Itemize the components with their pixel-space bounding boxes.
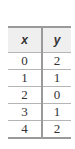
cell-y: 2: [42, 121, 71, 139]
cell-y: 1: [42, 104, 71, 121]
header-x: x: [8, 27, 42, 53]
cell-y: 2: [42, 53, 71, 70]
table-row: 1 1: [8, 70, 71, 87]
cell-x: 0: [8, 53, 42, 70]
header-y: y: [42, 27, 71, 53]
table-row: 0 2: [8, 53, 71, 70]
cell-y: 0: [42, 87, 71, 104]
cell-x: 2: [8, 87, 42, 104]
table-row: 4 2: [8, 121, 71, 139]
header-row: x y: [8, 27, 71, 53]
xy-table: x y 0 2 1 1 2 0 3 1 4 2: [8, 26, 71, 139]
cell-y: 1: [42, 70, 71, 87]
cell-x: 1: [8, 70, 42, 87]
cell-x: 3: [8, 104, 42, 121]
table-row: 3 1: [8, 104, 71, 121]
cell-x: 4: [8, 121, 42, 139]
table-row: 2 0: [8, 87, 71, 104]
